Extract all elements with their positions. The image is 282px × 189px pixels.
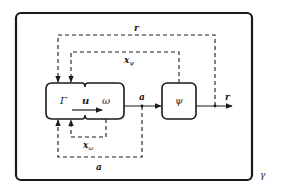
feedback-x-psi-label: xψ <box>123 55 134 67</box>
feedback-a-label: a <box>96 162 102 172</box>
psi-label: ψ <box>175 95 183 106</box>
outer-system-box <box>16 13 252 180</box>
omega-label: ω <box>102 95 110 106</box>
signal-a-label: a <box>139 92 145 102</box>
signal-r-label: r <box>225 92 231 102</box>
feedback-x-omega-line <box>71 119 106 137</box>
u-label: u <box>82 95 89 106</box>
feedback-r-label: r <box>134 23 140 33</box>
feedback-x-omega-label: xω <box>82 140 93 151</box>
outer-box-label: γ <box>260 170 266 180</box>
gamma-label: Γ <box>59 95 68 106</box>
block-diagram: γ Γ u ω ψ a r r xψ xω a <box>0 0 282 189</box>
